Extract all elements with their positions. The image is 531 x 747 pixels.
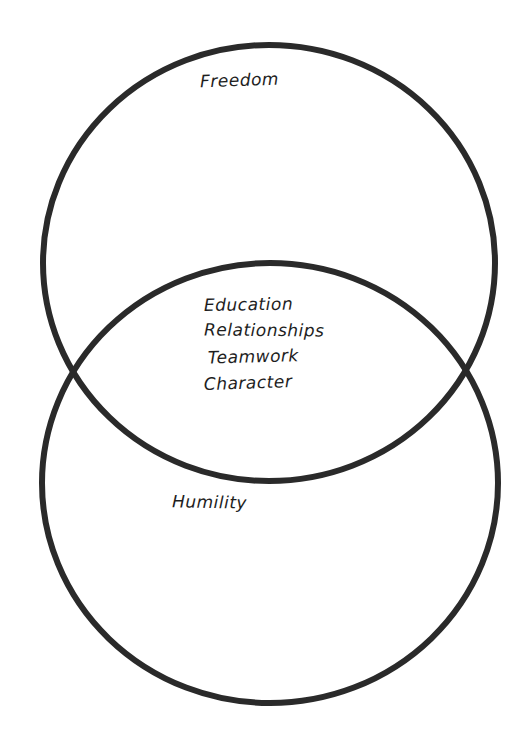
label-humility: Humility — [172, 493, 247, 511]
label-freedom: Freedom — [200, 71, 279, 91]
venn-diagram: Freedom Education Relationships Teamwork… — [0, 0, 531, 747]
overlap-item-character: Character — [204, 372, 325, 402]
overlap-items: Education Relationships Teamwork Charact… — [204, 296, 324, 400]
overlap-item-relationships: Relationships — [204, 321, 325, 348]
